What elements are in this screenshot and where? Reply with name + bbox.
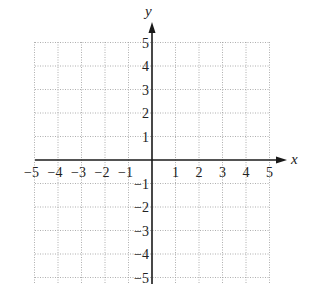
y-tick-label: −3 [134,224,149,239]
x-tick-label: −2 [95,165,110,180]
y-tick-label: −1 [134,177,149,192]
x-tick-label: −4 [48,165,63,180]
y-tick-label: −4 [134,247,149,262]
y-tick-label: 5 [142,36,149,51]
y-tick-label: 1 [142,130,149,145]
y-tick-label: −2 [134,200,149,215]
x-tick-label: 2 [196,165,203,180]
y-tick-label: 3 [142,83,149,98]
coordinate-plane: −5−4−3−2−112345 −5−4−3−2−112345 x y [0,0,309,290]
x-axis-arrow-icon [276,157,287,164]
x-tick-label: 3 [219,165,226,180]
x-tick-label: 5 [266,165,273,180]
x-tick-label: −5 [24,165,39,180]
x-tick-label: −3 [71,165,86,180]
x-tick-label: −1 [118,165,133,180]
x-tick-label: 4 [243,165,250,180]
axes [35,22,287,284]
y-axis-arrow-icon [149,22,156,33]
x-axis-label: x [290,151,298,167]
y-axis-label: y [143,3,152,19]
y-tick-label: −5 [134,271,149,286]
x-tick-label: 1 [172,165,179,180]
y-tick-label: 2 [142,106,149,121]
y-tick-label: 4 [142,59,149,74]
